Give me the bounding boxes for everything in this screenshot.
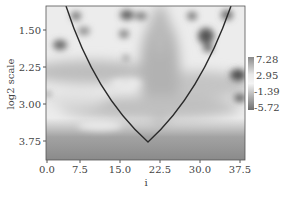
y-tick-label: 3.75 <box>19 136 41 147</box>
y-axis: 1.50 2.25 3.00 3.75 log2 scale <box>5 25 46 147</box>
x-tick-label: 37.5 <box>229 164 251 175</box>
x-tick-label: 7.5 <box>72 164 88 175</box>
y-tick-label: 1.50 <box>19 25 41 36</box>
colorbar-tick-label: 7.28 <box>256 54 278 65</box>
y-axis-label: log2 scale <box>5 58 16 109</box>
colorbar-tick-label: -5.72 <box>254 102 280 113</box>
x-axis-label: i <box>144 177 147 188</box>
y-tick-label: 2.25 <box>19 62 41 73</box>
x-tick-label: 30.0 <box>189 164 211 175</box>
heatmap-area <box>30 5 250 160</box>
colorbar-tick-label: -1.39 <box>254 86 280 97</box>
colorbar: 7.28 2.95 -1.39 -5.72 <box>248 54 280 113</box>
x-tick-label: 15.0 <box>109 164 131 175</box>
colorbar-tick-label: 2.95 <box>256 70 278 81</box>
x-tick-label: 22.5 <box>149 164 171 175</box>
x-tick-label: 0.0 <box>39 164 55 175</box>
y-tick-label: 3.00 <box>19 99 41 110</box>
x-axis: 0.0 7.5 15.0 22.5 30.0 37.5 i <box>39 160 251 188</box>
wavelet-heatmap-chart: 1.50 2.25 3.00 3.75 log2 scale 0.0 7.5 1… <box>0 0 289 199</box>
